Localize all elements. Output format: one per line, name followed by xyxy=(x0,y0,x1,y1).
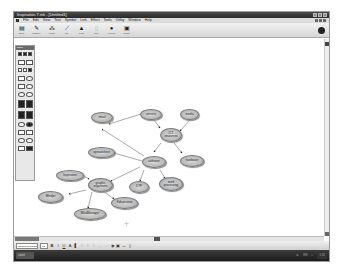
window-title: Inspiration 7.ink - [Untitled1] xyxy=(17,12,67,17)
shape-dark-icon[interactable] xyxy=(28,68,32,72)
node-email[interactable]: email xyxy=(91,112,113,123)
shape-cloud-icon[interactable] xyxy=(26,84,33,89)
symbol-border-icon[interactable]: ▣ xyxy=(116,243,120,248)
palette-nav-next-icon[interactable] xyxy=(28,52,32,56)
clock: 1:52 xyxy=(317,252,327,259)
node-graphic-organisers[interactable]: graphic organisers xyxy=(88,178,113,192)
doc-close-button[interactable] xyxy=(323,19,326,22)
main-toolbar: ▤ Outline ✎ RapidFire ⁂ Arrange ⟋ Link ▲… xyxy=(14,23,329,38)
transfer-icon: ▣ xyxy=(123,25,130,32)
shape-small-icon[interactable] xyxy=(23,68,27,72)
note-toggle-icon[interactable]: ▯ xyxy=(128,243,132,248)
text-color-button[interactable]: A xyxy=(68,243,72,248)
node-ict-resources[interactable]: ICT resources xyxy=(160,128,182,142)
hyperlink-button[interactable]: ● Hyperlink xyxy=(107,25,116,36)
node-hardware[interactable]: hardware xyxy=(180,155,204,167)
bold-button[interactable]: B xyxy=(50,243,54,248)
node-inspiration[interactable]: Inspiration xyxy=(56,170,84,181)
node-kidspiration[interactable]: Kidspiration xyxy=(111,197,138,209)
arrow-style-icon[interactable]: → xyxy=(104,243,108,248)
node-software[interactable]: software xyxy=(142,156,166,168)
rapidfire-icon: ✎ xyxy=(33,25,40,32)
font-select[interactable]: Times New Roman xyxy=(16,243,38,249)
transfer-button[interactable]: ▣ Transfer xyxy=(122,25,131,36)
note-icon: ▯ xyxy=(93,25,100,32)
palette-nav-prev-icon[interactable] xyxy=(18,52,22,56)
minimize-button[interactable] xyxy=(313,13,317,17)
doc-restore-button[interactable] xyxy=(319,19,322,22)
shape-ellipse-icon[interactable] xyxy=(26,92,33,97)
create-icon: ▲ xyxy=(78,25,85,32)
shape-globe-icon[interactable] xyxy=(26,122,33,127)
crosshair-cursor: + xyxy=(124,219,129,229)
shape-pen-icon[interactable] xyxy=(26,130,33,135)
scroll-down-button[interactable] xyxy=(325,232,329,236)
shape-oval-icon[interactable] xyxy=(26,76,33,81)
document-window-controls xyxy=(315,19,326,22)
application-window: Inspiration 7.ink - [Untitled1] File Edi… xyxy=(13,11,330,262)
link-button[interactable]: ⟋ Link xyxy=(62,25,71,36)
system-tray: ⇅ EN ◖ 1:52 xyxy=(296,252,327,259)
shape-small-icon[interactable] xyxy=(18,68,22,72)
create-button[interactable]: ▲ Create xyxy=(77,25,86,36)
shape-battery-icon[interactable] xyxy=(26,100,33,108)
link-direction-icon[interactable]: ↔ xyxy=(122,243,126,248)
shape-rectangle-icon[interactable] xyxy=(26,60,33,65)
align-right-icon[interactable]: ≡ xyxy=(92,243,96,248)
tray-language-icon[interactable]: EN xyxy=(303,252,307,259)
italic-button[interactable]: I xyxy=(56,243,60,248)
shape-bottle-icon[interactable] xyxy=(18,100,25,108)
shape-rectangle-icon[interactable] xyxy=(18,60,25,65)
palette-title: Basic xyxy=(16,46,34,50)
align-center-icon[interactable]: ≡ xyxy=(86,243,90,248)
shape-star-icon[interactable] xyxy=(18,92,25,97)
tray-network-icon[interactable]: ⇅ xyxy=(296,252,299,259)
shape-computer-icon[interactable] xyxy=(18,146,25,151)
diagram-canvas[interactable]: email servers media ICT resources spread… xyxy=(14,39,324,236)
palette-nav-home-icon[interactable] xyxy=(23,52,27,56)
node-media[interactable]: media xyxy=(180,109,199,120)
node-dtp[interactable]: DTP xyxy=(129,181,149,193)
shape-box-icon[interactable] xyxy=(18,76,25,81)
outline-icon: ▤ xyxy=(18,25,25,32)
node-mindmanager[interactable]: MindManager xyxy=(74,208,106,220)
align-left-icon[interactable]: ≡ xyxy=(80,243,84,248)
maximize-button[interactable] xyxy=(318,13,322,17)
shape-phone-icon[interactable] xyxy=(18,111,25,119)
tray-volume-icon[interactable]: ◖ xyxy=(311,252,313,259)
fill-color-icon[interactable]: ▌ xyxy=(74,243,78,248)
link-icon: ⟋ xyxy=(63,25,70,32)
vertical-scroll-thumb[interactable] xyxy=(325,42,329,46)
shape-magnifier-icon[interactable] xyxy=(18,122,25,127)
shape-scroll-icon[interactable] xyxy=(18,84,25,89)
arrange-icon: ⁂ xyxy=(48,25,55,32)
vertical-scrollbar[interactable] xyxy=(324,39,329,236)
formatting-toolbar: Times New Roman 12 B I U A ▌ ≡ ≡ ≡ — → ◉… xyxy=(14,241,329,250)
node-servers[interactable]: servers xyxy=(140,109,162,120)
node-mindjet[interactable]: Mindjet xyxy=(38,191,63,203)
shape-fish-icon[interactable] xyxy=(26,138,33,143)
underline-button[interactable]: U xyxy=(62,243,66,248)
shape-remote-icon[interactable] xyxy=(26,111,33,119)
symbol-palette: Basic xyxy=(15,45,35,181)
window-controls xyxy=(313,13,327,17)
shape-mountain-icon[interactable] xyxy=(26,146,33,151)
shape-tools-icon[interactable] xyxy=(18,130,25,135)
shape-sun-icon[interactable] xyxy=(18,138,25,143)
hyperlink-icon: ● xyxy=(108,25,115,32)
taskbar: start ⇅ EN ◖ 1:52 xyxy=(14,250,329,261)
note-button[interactable]: ▯ Note xyxy=(92,25,101,36)
font-size-select[interactable]: 12 xyxy=(40,243,48,249)
help-icon[interactable] xyxy=(318,27,325,34)
node-word-processing[interactable]: word processing xyxy=(159,177,183,191)
shadow-icon[interactable]: ◉ xyxy=(110,243,114,248)
start-button[interactable]: start xyxy=(16,252,34,259)
doc-minimize-button[interactable] xyxy=(315,19,318,22)
arrange-button[interactable]: ⁂ Arrange xyxy=(47,25,56,36)
node-spreadsheet[interactable]: spreadsheet xyxy=(88,147,115,158)
outline-button[interactable]: ▤ Outline xyxy=(17,25,26,36)
close-button[interactable] xyxy=(323,13,327,17)
document-icon[interactable] xyxy=(16,19,19,22)
rapidfire-button[interactable]: ✎ RapidFire xyxy=(32,25,41,36)
line-style-icon[interactable]: — xyxy=(98,243,102,248)
